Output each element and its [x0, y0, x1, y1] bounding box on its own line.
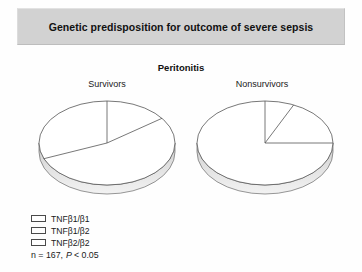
legend-item: TNFβ2/β2: [31, 237, 90, 248]
legend-swatch-icon: [31, 239, 46, 246]
page-title: Genetic predisposition for outcome of se…: [49, 21, 314, 33]
pie-chart-survivors: [32, 94, 182, 199]
stats-caption: n = 167,P< 0.05: [31, 250, 99, 260]
legend-item-label: TNFβ1/β1: [51, 214, 90, 224]
legend-swatch-icon: [31, 215, 46, 222]
pie-survivors-svg: [32, 94, 182, 199]
legend-item-label: TNFβ2/β2: [51, 238, 90, 248]
legend-item: TNFβ1/β2: [31, 225, 90, 236]
stats-sample-size: n = 167,: [31, 250, 63, 260]
pie-nonsurvivors-svg: [190, 94, 340, 199]
legend-swatch-icon: [31, 227, 46, 234]
legend: TNFβ1/β1 TNFβ1/β2 TNFβ2/β2: [31, 213, 90, 249]
pie-chart-nonsurvivors: [190, 94, 340, 199]
stats-p-symbol: P: [66, 250, 72, 260]
stats-p-value: < 0.05: [74, 250, 99, 260]
group-label-nonsurvivors: Nonsurvivors: [202, 79, 322, 89]
group-label-survivors: Survivors: [47, 79, 167, 89]
figure-title-banner: Genetic predisposition for outcome of se…: [17, 8, 345, 45]
figure-subtitle: Peritonitis: [0, 62, 362, 73]
figure-root: Genetic predisposition for outcome of se…: [0, 0, 362, 272]
legend-item: TNFβ1/β1: [31, 213, 90, 224]
legend-item-label: TNFβ1/β2: [51, 226, 90, 236]
